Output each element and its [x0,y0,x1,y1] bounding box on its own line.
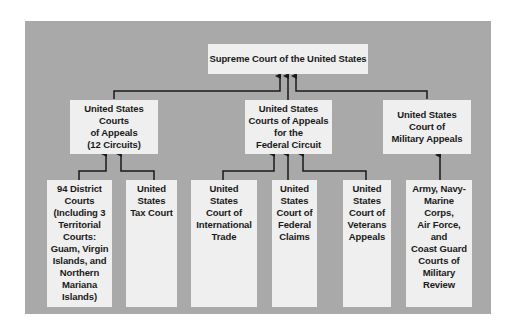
supreme-court-label: Supreme Court of the United States [209,53,366,65]
military-review-label: Army, Navy- Marine Corps, Air Force, and… [411,183,467,291]
courts-of-appeals-label: United States Courts of Appeals (12 Circ… [84,103,143,151]
federal-circuit-label: United States Courts of Appeals for the … [249,103,329,151]
veterans-appeals-label: United States Court of Veterans Appeals [348,183,387,243]
supreme-court-box: Supreme Court of the United States [208,44,368,74]
international-trade-box: United States Court of International Tra… [191,180,257,307]
federal-claims-label: United States Court of Federal Claims [276,183,312,243]
military-appeals-box: United States Court of Military Appeals [383,100,471,154]
military-review-box: Army, Navy- Marine Corps, Air Force, and… [406,180,472,307]
courts-of-appeals-box: United States Courts of Appeals (12 Circ… [70,100,158,154]
federal-circuit-box: United States Courts of Appeals for the … [245,100,332,154]
veterans-appeals-box: United States Court of Veterans Appeals [343,180,391,307]
tax-court-label: United States Tax Court [130,183,173,219]
international-trade-label: United States Court of International Tra… [196,183,252,243]
military-appeals-label: United States Court of Military Appeals [392,109,463,145]
district-courts-label: 94 District Courts (Including 3 Territor… [51,183,109,303]
district-courts-box: 94 District Courts (Including 3 Territor… [47,180,112,307]
tax-court-box: United States Tax Court [126,180,177,307]
federal-claims-box: United States Court of Federal Claims [272,180,317,307]
